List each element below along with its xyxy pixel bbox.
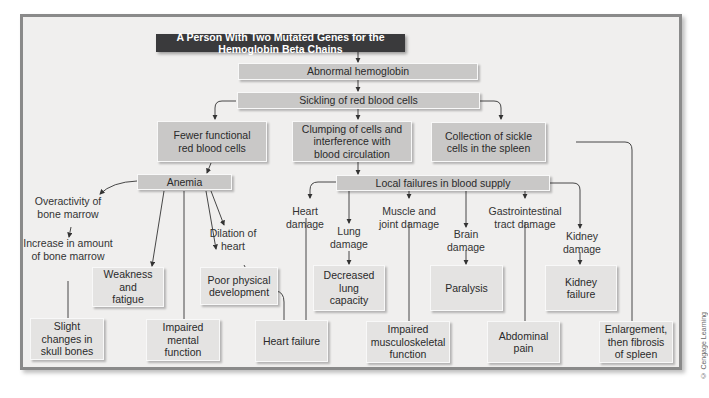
node-skull: Slight changes in skull bones — [30, 318, 104, 360]
title-box: A Person With Two Mutated Genes for the … — [156, 34, 405, 52]
node-spleen-fibrosis: Enlargement, then fibrosis of spleen — [599, 321, 673, 363]
node-collection-spleen: Collection of sickle cells in the spleen — [431, 122, 546, 162]
node-abnormal-hemoglobin: Abnormal hemoglobin — [238, 63, 478, 80]
node-decreased-lung: Decreased lung capacity — [313, 265, 385, 311]
node-mental: Impaired mental function — [146, 319, 220, 361]
copyright-credit: © Cengage Learning — [700, 312, 707, 379]
node-anemia: Anemia — [137, 174, 232, 190]
label-brain-damage: Brain damage — [444, 228, 488, 253]
label-lung-damage: Lung damage — [327, 225, 371, 250]
node-kidney-failure: Kidney failure — [545, 265, 617, 311]
label-gi-damage: Gastrointestinal tract damage — [487, 205, 563, 230]
node-heart-failure: Heart failure — [255, 320, 328, 362]
label-overactivity: Overactivity of bone marrow — [33, 195, 103, 220]
label-increase-marrow: Increase in amount of bone marrow — [18, 237, 118, 262]
node-musculoskeletal: Impaired musculoskeletal function — [366, 321, 450, 363]
node-clumping: Clumping of cells and interference with … — [292, 121, 412, 162]
label-heart-damage: Heart damage — [283, 205, 327, 230]
node-abdominal: Abdominal pain — [487, 321, 560, 363]
node-poor-development: Poor physical development — [200, 267, 278, 305]
label-dilation: Dilation of heart — [209, 227, 257, 252]
label-kidney-damage: Kidney damage — [560, 230, 604, 255]
node-local-failures: Local failures in blood supply — [336, 175, 550, 191]
node-weakness: Weakness and fatigue — [92, 267, 164, 307]
label-muscle-damage: Muscle and joint damage — [373, 205, 445, 230]
node-fewer-rbc: Fewer functional red blood cells — [157, 121, 267, 162]
node-sickling: Sickling of red blood cells — [237, 92, 480, 109]
node-paralysis: Paralysis — [430, 265, 503, 311]
